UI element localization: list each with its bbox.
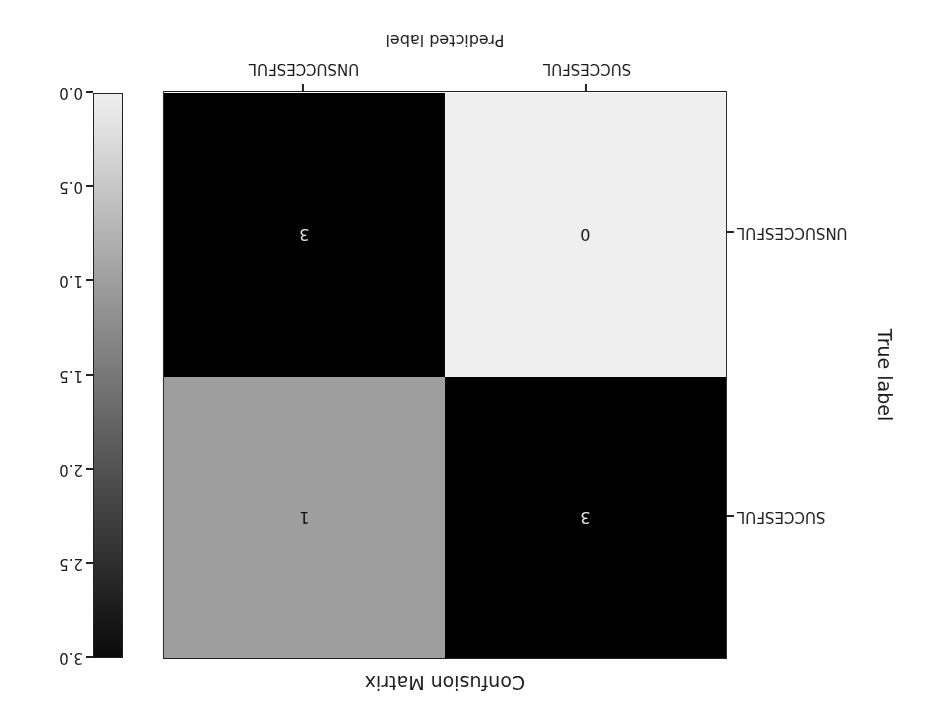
chart-title: Confusion Matrix	[163, 672, 727, 694]
colorbar-tick-label: 2.0	[59, 461, 83, 479]
cell-true-unsuccesful-pred-unsuccesful: 3	[164, 93, 445, 377]
row-tick-mark	[727, 232, 734, 234]
colorbar-tick-label: 0.0	[59, 84, 83, 102]
cell-true-succesful-pred-unsuccesful: 1	[164, 377, 445, 658]
cell-value: 0	[580, 226, 590, 245]
cell-true-succesful-pred-succesful: 3	[445, 377, 726, 658]
row-tick-label-unsuccesful: UNSUCCESFUL	[737, 224, 848, 242]
colorbar-tick-label: 1.0	[59, 272, 83, 290]
colorbar-tick	[86, 563, 93, 565]
colorbar-tick	[86, 469, 93, 471]
col-tick-mark	[303, 84, 305, 91]
row-tick-mark	[727, 516, 734, 518]
col-tick-label-unsuccesful: UNSUCCESFUL	[249, 60, 360, 78]
colorbar-tick-label: 1.5	[59, 367, 83, 385]
colorbar-tick-label: 0.5	[59, 178, 83, 196]
colorbar	[93, 93, 123, 658]
col-tick-label-succesful: SUCCESFUL	[543, 60, 631, 78]
cell-value: 3	[299, 226, 309, 245]
confusion-matrix-figure: Confusion Matrix True label SUCCESFUL UN…	[0, 0, 951, 718]
colorbar-tick	[86, 657, 93, 659]
cell-true-unsuccesful-pred-succesful: 0	[445, 93, 726, 377]
row-tick-label-succesful: SUCCESFUL	[737, 508, 825, 526]
colorbar-tick	[86, 280, 93, 282]
colorbar-tick	[86, 92, 93, 94]
colorbar-tick	[86, 186, 93, 188]
cell-value: 1	[299, 508, 309, 527]
x-axis-label: Predicted label	[163, 31, 727, 50]
col-tick-mark	[586, 84, 588, 91]
colorbar-tick	[86, 375, 93, 377]
y-axis-label: True label	[874, 329, 896, 421]
heatmap-grid: 3 1 0 3	[163, 91, 727, 659]
colorbar-tick-label: 2.5	[59, 555, 83, 573]
cell-value: 3	[580, 508, 590, 527]
colorbar-tick-label: 3.0	[59, 649, 83, 667]
